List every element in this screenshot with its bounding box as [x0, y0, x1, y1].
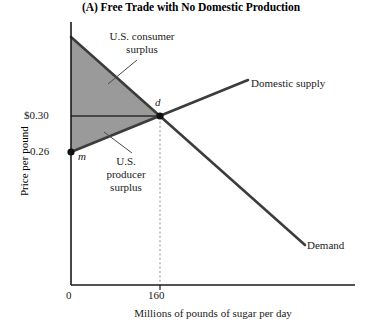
point-m-label: m — [78, 150, 86, 163]
x-axis-title: Millions of pounds of sugar per day — [71, 307, 355, 320]
producer-surplus-label-line3: surplus — [95, 181, 157, 194]
consumer-surplus-label-line1: U.S. consumer — [88, 30, 196, 43]
point-m-marker — [67, 148, 74, 155]
x-tick-label-160: 160 — [148, 289, 165, 302]
producer-surplus-label-line1: U.S. — [95, 155, 157, 168]
y-tick-label-026: 0.26 — [30, 145, 49, 158]
y-tick-label-030: $0.30 — [24, 109, 49, 122]
point-d-marker — [156, 112, 163, 119]
demand-label: Demand — [307, 239, 344, 252]
domestic-supply-label: Domestic supply — [251, 77, 325, 90]
producer-surplus-label-line2: producer — [95, 168, 157, 181]
demand-curve — [71, 37, 305, 245]
producer-surplus-leader-line — [104, 132, 132, 153]
figure-container: (A) Free Trade with No Domestic Producti… — [0, 0, 382, 324]
point-d-label: d — [155, 96, 161, 109]
y-axis-title: Price per pound — [18, 126, 30, 196]
consumer-surplus-label-line2: surplus — [88, 43, 196, 56]
x-tick-label-0: 0 — [66, 289, 72, 302]
consumer-surplus-leader-line — [108, 60, 137, 84]
